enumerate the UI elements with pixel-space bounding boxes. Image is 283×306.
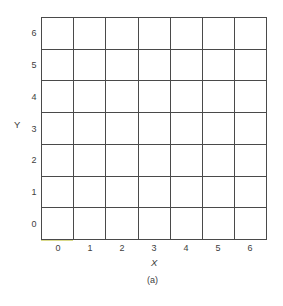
x-tick-label: 5 (210, 243, 226, 253)
x-tick-label: 1 (82, 243, 98, 253)
x-axis-title: X (151, 258, 157, 268)
y-axis-title: Y (14, 120, 20, 130)
y-tick-label: 3 (26, 124, 42, 134)
x-tick-label: 6 (242, 243, 258, 253)
x-tick-label: 3 (146, 243, 162, 253)
y-tick-label: 0 (26, 219, 42, 229)
y-tick-label: 6 (26, 28, 42, 38)
y-tick-label: 2 (26, 155, 42, 165)
grid (0, 0, 283, 306)
x-tick-label: 4 (178, 243, 194, 253)
y-tick-label: 5 (26, 60, 42, 70)
x-tick-label: 0 (50, 243, 66, 253)
y-tick-label: 4 (26, 92, 42, 102)
figure-caption: (a) (147, 275, 158, 285)
y-tick-label: 1 (26, 187, 42, 197)
grid-figure: 6 5 4 3 2 1 0 Y 0 1 2 3 4 5 6 X (a) (0, 0, 283, 306)
x-tick-label: 2 (114, 243, 130, 253)
grid-lines (41, 17, 267, 240)
